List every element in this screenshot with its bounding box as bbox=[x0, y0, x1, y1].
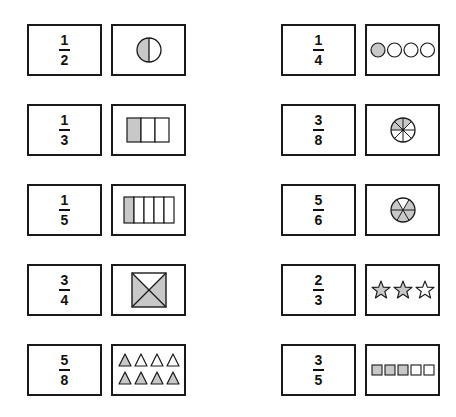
fraction-bar bbox=[313, 49, 324, 51]
pie-sixths-icon bbox=[388, 195, 418, 225]
fraction-card-1-3[interactable]: 1 3 bbox=[27, 104, 102, 156]
numerator: 1 bbox=[315, 33, 323, 47]
numerator: 5 bbox=[315, 193, 323, 207]
picture-card-fifths-bar[interactable] bbox=[111, 184, 186, 236]
triangles-icon bbox=[118, 352, 180, 388]
fraction: 1 3 bbox=[59, 113, 70, 147]
denominator: 3 bbox=[61, 133, 69, 147]
fraction-bar bbox=[59, 129, 70, 131]
fraction-card-1-4[interactable]: 1 4 bbox=[281, 24, 356, 76]
picture-card-pie-sixths[interactable] bbox=[365, 184, 440, 236]
fraction: 2 3 bbox=[313, 273, 324, 307]
denominator: 5 bbox=[61, 213, 69, 227]
numerator: 1 bbox=[61, 193, 69, 207]
picture-card-stars[interactable] bbox=[365, 264, 440, 316]
circles-icon bbox=[369, 41, 437, 59]
fraction-bar bbox=[313, 209, 324, 211]
thirds-bar-icon bbox=[126, 117, 172, 143]
picture-card-circles[interactable] bbox=[365, 24, 440, 76]
denominator: 8 bbox=[61, 373, 69, 387]
fraction: 3 5 bbox=[313, 353, 324, 387]
fraction: 5 8 bbox=[59, 353, 70, 387]
denominator: 5 bbox=[315, 373, 323, 387]
fraction-card-5-8[interactable]: 5 8 bbox=[27, 344, 102, 396]
fifths-bar-icon bbox=[123, 196, 175, 224]
denominator: 4 bbox=[315, 53, 323, 67]
denominator: 2 bbox=[61, 53, 69, 67]
numerator: 2 bbox=[315, 273, 323, 287]
fraction-card-3-4[interactable]: 3 4 bbox=[27, 264, 102, 316]
denominator: 4 bbox=[61, 293, 69, 307]
fraction-bar bbox=[313, 289, 324, 291]
picture-card-triangles[interactable] bbox=[111, 344, 186, 396]
fraction-card-1-5[interactable]: 1 5 bbox=[27, 184, 102, 236]
picture-card-thirds-bar[interactable] bbox=[111, 104, 186, 156]
fraction: 1 4 bbox=[313, 33, 324, 67]
fraction-card-2-3[interactable]: 2 3 bbox=[281, 264, 356, 316]
pie-eighths-icon bbox=[388, 115, 418, 145]
numerator: 3 bbox=[315, 353, 323, 367]
fraction: 3 8 bbox=[313, 113, 324, 147]
fraction-card-5-6[interactable]: 5 6 bbox=[281, 184, 356, 236]
fraction-card-1-2[interactable]: 1 2 bbox=[27, 24, 102, 76]
fraction-card-3-5[interactable]: 3 5 bbox=[281, 344, 356, 396]
numerator: 1 bbox=[61, 113, 69, 127]
square-quarters-icon bbox=[131, 272, 167, 308]
fraction-bar bbox=[313, 369, 324, 371]
picture-card-half-circle[interactable] bbox=[111, 24, 186, 76]
fraction: 5 6 bbox=[313, 193, 324, 227]
denominator: 3 bbox=[315, 293, 323, 307]
fraction: 1 5 bbox=[59, 193, 70, 227]
squares-icon bbox=[371, 363, 435, 377]
picture-card-pie-eighths[interactable] bbox=[365, 104, 440, 156]
stars-icon bbox=[371, 280, 435, 300]
denominator: 6 bbox=[315, 213, 323, 227]
fraction-bar bbox=[59, 209, 70, 211]
denominator: 8 bbox=[315, 133, 323, 147]
fraction-bar bbox=[59, 369, 70, 371]
numerator: 1 bbox=[61, 33, 69, 47]
half-shaded-circle-icon bbox=[134, 35, 164, 65]
fraction-bar bbox=[313, 129, 324, 131]
picture-card-square-quarters[interactable] bbox=[111, 264, 186, 316]
fraction-card-3-8[interactable]: 3 8 bbox=[281, 104, 356, 156]
numerator: 3 bbox=[315, 113, 323, 127]
fraction-bar bbox=[59, 49, 70, 51]
fraction: 3 4 bbox=[59, 273, 70, 307]
picture-card-squares[interactable] bbox=[365, 344, 440, 396]
numerator: 3 bbox=[61, 273, 69, 287]
fraction-bar bbox=[59, 289, 70, 291]
fraction: 1 2 bbox=[59, 33, 70, 67]
numerator: 5 bbox=[61, 353, 69, 367]
